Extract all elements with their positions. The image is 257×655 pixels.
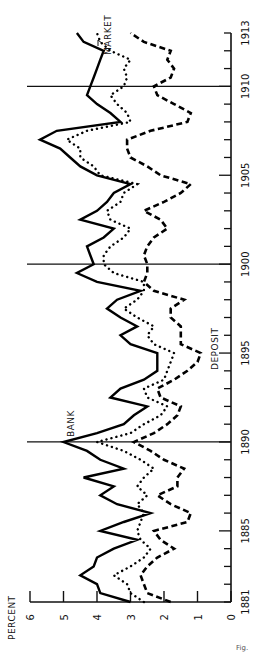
deposit-series-label: DEPOSIT: [210, 328, 220, 371]
year-tick-label: 1910: [240, 74, 251, 99]
data-series: [40, 33, 201, 602]
percent-tick-label: 3: [126, 614, 137, 620]
figure-caption-fragment: Fig.: [236, 644, 248, 652]
reference-lines: [27, 86, 231, 442]
year-tick-label: 1905: [240, 163, 251, 188]
year-tick-label: 1881: [240, 589, 251, 614]
axes: [30, 33, 231, 602]
percent-tick-label: 4: [92, 614, 103, 620]
percent-tick-label: 1: [193, 614, 204, 620]
year-tick-label: 1885: [240, 518, 251, 543]
year-tick-label: 1890: [240, 429, 251, 454]
percent-tick-label: 0: [226, 614, 237, 620]
year-tick-label: 1900: [240, 251, 251, 276]
percent-tick-label: 5: [59, 614, 70, 620]
year-tick-label: 1895: [240, 340, 251, 365]
y-axis-title: PERCENT: [7, 595, 17, 640]
series-bank: [40, 33, 157, 602]
percent-tick-label: 6: [25, 614, 36, 620]
percent-tick-label: 2: [159, 614, 170, 620]
market-series-label: MARKET: [103, 15, 113, 55]
year-tick-label: 1913: [240, 20, 251, 45]
bank-series-label: BANK: [66, 410, 76, 437]
